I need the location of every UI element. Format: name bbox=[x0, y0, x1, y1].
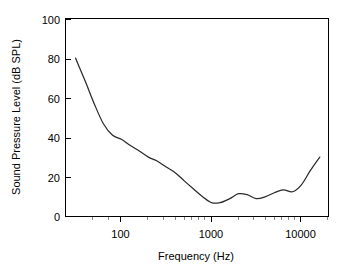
x-tick-label-1000: 1000 bbox=[199, 228, 223, 240]
x-tick-label-100: 100 bbox=[111, 228, 129, 240]
x-tick-label-10000: 10000 bbox=[285, 228, 316, 240]
y-tick-label-100: 100 bbox=[42, 14, 60, 26]
data-series-line bbox=[76, 58, 320, 203]
y-tick-label-40: 40 bbox=[48, 132, 60, 144]
y-axis-title: Sound Pressure Level (dB SPL) bbox=[10, 39, 22, 195]
y-tick-label-20: 20 bbox=[48, 172, 60, 184]
chart-svg: 100 80 60 40 20 0 100 1000 10000 Frequen… bbox=[0, 0, 351, 274]
x-axis-title: Frequency (Hz) bbox=[158, 250, 234, 262]
y-tick-label-60: 60 bbox=[48, 93, 60, 105]
y-tick-label-80: 80 bbox=[48, 53, 60, 65]
y-axis-tick-labels: 100 80 60 40 20 0 bbox=[42, 14, 60, 223]
y-tick-label-0: 0 bbox=[54, 211, 60, 223]
plot-frame bbox=[66, 19, 329, 217]
chart-figure: 100 80 60 40 20 0 100 1000 10000 Frequen… bbox=[0, 0, 351, 274]
y-axis-ticks bbox=[66, 20, 71, 217]
x-axis-tick-labels: 100 1000 10000 bbox=[111, 228, 315, 240]
